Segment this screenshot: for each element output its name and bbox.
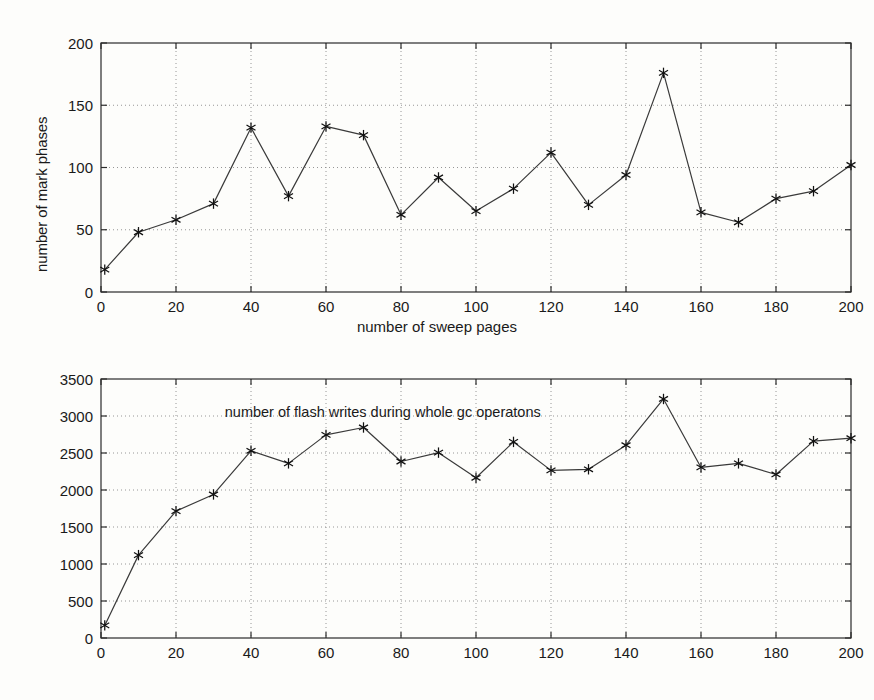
data-point-marker	[322, 121, 331, 131]
x-tick-label: 100	[463, 644, 488, 661]
x-tick-label: 80	[393, 644, 410, 661]
chart-annotation: number of flash writes during whole gc o…	[225, 404, 541, 420]
x-tick-label: 100	[463, 298, 488, 315]
x-tick-label: 180	[763, 644, 788, 661]
data-point-marker	[809, 186, 818, 196]
data-point-marker	[284, 458, 293, 468]
chart-mark-phases: 020406080100120140160180200050100150200 …	[0, 0, 874, 350]
data-point-marker	[472, 206, 481, 216]
x-tick-label: 160	[688, 644, 713, 661]
mark-phases-plot-area: 020406080100120140160180200050100150200	[0, 0, 874, 350]
x-tick-label: 120	[538, 644, 563, 661]
data-point-marker	[284, 191, 293, 201]
y-tick-label: 3000	[60, 408, 93, 425]
x-tick-label: 60	[318, 644, 335, 661]
series-markers	[100, 68, 855, 275]
data-point-marker	[172, 215, 181, 225]
x-tick-label: 0	[97, 644, 105, 661]
data-point-marker	[247, 122, 256, 132]
x-tick-label: 80	[393, 298, 410, 315]
flash-writes-plot-area: 0204060801001201401601802000500100015002…	[0, 350, 874, 700]
x-tick-label: 200	[838, 298, 863, 315]
y-tick-label: 1500	[60, 519, 93, 536]
x-tick-label: 120	[538, 298, 563, 315]
y-tick-label: 500	[68, 593, 93, 610]
figure-page: 020406080100120140160180200050100150200 …	[0, 0, 874, 700]
x-tick-label: 180	[763, 298, 788, 315]
mark-phases-x-axis-label: number of sweep pages	[0, 318, 874, 335]
y-tick-label: 1000	[60, 556, 93, 573]
series-markers	[100, 394, 855, 631]
grid	[101, 43, 851, 292]
data-point-marker	[847, 160, 856, 170]
x-tick-label: 60	[318, 298, 335, 315]
y-tick-label: 150	[68, 97, 93, 114]
chart-flash-writes: 0204060801001201401601802000500100015002…	[0, 350, 874, 700]
y-tick-label: 100	[68, 159, 93, 176]
x-tick-label: 160	[688, 298, 713, 315]
x-tick-label: 140	[613, 644, 638, 661]
y-tick-label: 0	[85, 630, 93, 647]
data-point-marker	[322, 430, 331, 440]
x-tick-label: 40	[243, 644, 260, 661]
y-tick-label: 2500	[60, 445, 93, 462]
y-tick-label: 3500	[60, 371, 93, 388]
series-line	[105, 73, 851, 270]
data-point-marker	[734, 217, 743, 227]
x-tick-label: 20	[168, 298, 185, 315]
data-point-marker	[622, 170, 631, 180]
y-tick-label: 200	[68, 35, 93, 52]
data-point-marker	[359, 130, 368, 140]
mark-phases-y-axis-label: number of mark phases	[33, 117, 50, 272]
axis-ticks: 020406080100120140160180200050100150200	[68, 35, 864, 316]
data-point-marker	[659, 68, 668, 78]
data-point-marker	[772, 193, 781, 203]
y-tick-label: 50	[76, 221, 93, 238]
x-tick-label: 140	[613, 298, 638, 315]
y-tick-label: 2000	[60, 482, 93, 499]
x-tick-label: 200	[838, 644, 863, 661]
series-line	[105, 399, 851, 625]
data-point-marker	[772, 469, 781, 479]
x-tick-label: 0	[97, 298, 105, 315]
data-point-marker	[697, 207, 706, 217]
y-tick-label: 0	[85, 284, 93, 301]
data-point-marker	[209, 198, 218, 208]
x-tick-label: 20	[168, 644, 185, 661]
x-tick-label: 40	[243, 298, 260, 315]
